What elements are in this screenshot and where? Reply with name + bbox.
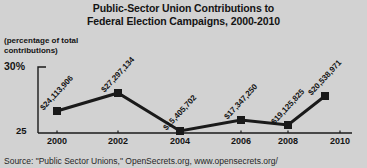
chart-figure: Public-Sector Union Contributions to Fed… <box>0 0 367 168</box>
x-axis-label-2000: 2000 <box>37 136 77 146</box>
x-axis-label-2008: 2008 <box>268 136 308 146</box>
data-point-2006 <box>237 116 245 124</box>
data-point-2004 <box>176 127 184 135</box>
x-axis-label-2006: 2006 <box>221 136 261 146</box>
data-point-2010 <box>321 92 329 100</box>
data-point-2000 <box>53 107 61 115</box>
data-point-2002 <box>114 89 122 97</box>
source-note: Source: "Public Sector Unions," OpenSecr… <box>4 156 278 166</box>
data-point-2008 <box>284 121 292 129</box>
x-axis-label-2004: 2004 <box>160 136 200 146</box>
x-axis-label-2002: 2002 <box>98 136 138 146</box>
x-axis-label-2010: 2010 <box>320 136 360 146</box>
